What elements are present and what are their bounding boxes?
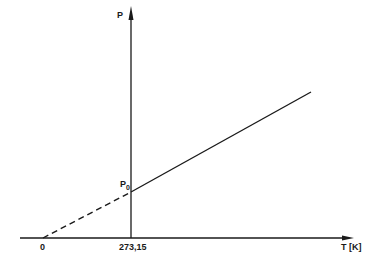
pressure-line (131, 92, 311, 192)
tick-label-273: 273,15 (119, 243, 147, 252)
x-axis-label: T [K] (341, 243, 362, 252)
origin-label: 0 (40, 243, 45, 252)
extrapolation-dashed-line (43, 192, 131, 238)
point-label-subscript: 0 (126, 184, 130, 191)
y-axis-arrow-icon (129, 6, 134, 20)
x-axis-arrow-icon (342, 236, 354, 241)
pressure-temperature-diagram (0, 0, 383, 266)
point-p0-label: P0 (120, 180, 130, 191)
y-axis-label: P (117, 11, 123, 20)
